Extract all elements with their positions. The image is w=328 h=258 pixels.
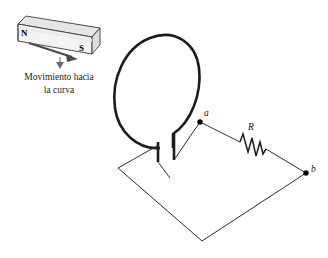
magnet-north-label: N (21, 28, 28, 38)
wire-loop-leads (158, 134, 174, 162)
plane-edge-bottom-right (202, 173, 306, 241)
lead-right-connector (174, 122, 200, 160)
node-b: b (303, 164, 316, 176)
node-a-dot (197, 119, 202, 124)
induction-figure: N S Movimiento hacia la curva (0, 0, 328, 258)
lead-left-connector (158, 162, 170, 178)
resistor-symbol (240, 134, 266, 156)
node-a: a (197, 108, 209, 125)
node-b-dot (303, 170, 308, 175)
wire-a-to-resistor (200, 122, 240, 142)
caption-line-2: la curva (44, 85, 75, 95)
caption-line-1: Movimiento hacia (24, 72, 94, 82)
magnet-south-label: S (79, 43, 84, 53)
node-a-label: a (204, 108, 209, 118)
plane-edge-top-left (118, 146, 157, 168)
loop-ellipse-path (114, 35, 199, 148)
wire-loop-circular (114, 35, 199, 148)
resistor-label: R (247, 122, 254, 132)
bar-magnet: N S (18, 16, 100, 54)
circuit-plane (118, 146, 306, 241)
magnet-caption: Movimiento hacia la curva (24, 72, 94, 95)
resistor-branch: R (200, 122, 306, 173)
plane-edge-bottom-left (118, 168, 202, 241)
wire-resistor-to-b (266, 149, 306, 173)
caption-arrow-icon (56, 57, 64, 69)
node-b-label: b (311, 164, 316, 174)
